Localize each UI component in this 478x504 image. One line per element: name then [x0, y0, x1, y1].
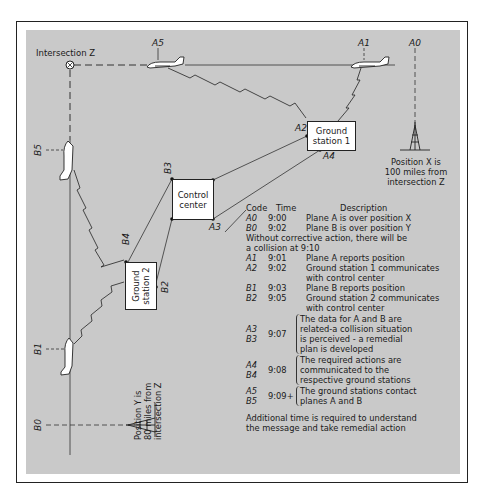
row-code: A0	[246, 213, 268, 223]
marker-b3: B3	[163, 162, 173, 174]
table-row: A1 9:01 Plane A reports position	[246, 253, 458, 263]
ground-station-2-line2: station 2	[141, 267, 151, 304]
row-description-l2: with control center	[306, 273, 384, 283]
radio-link-b5	[74, 170, 124, 267]
group-code: A4	[246, 360, 268, 370]
marker-a2: A2	[295, 123, 307, 133]
plane-b1-icon	[61, 338, 73, 375]
row-time: 9:02	[268, 223, 306, 233]
group-line: is perceived - a remedial	[300, 334, 458, 344]
row-description-l1: Ground station 1 communicates	[306, 263, 439, 273]
table-group: A5B5 9:09+ The ground stations contact p…	[246, 386, 458, 406]
marker-a5: A5	[152, 38, 164, 48]
group-line: The required actions are	[300, 355, 458, 365]
ground-station-1-box: Ground station 1	[307, 121, 356, 151]
intersection-z-label: Intersection Z	[36, 48, 95, 58]
row-code: B0	[246, 223, 268, 233]
radio-tower-x-icon	[400, 122, 430, 150]
position-x-line3: intersection Z	[378, 177, 454, 187]
group-line: respective ground stations	[300, 375, 458, 385]
table-row: A2 9:02 Ground station 1 communicateswit…	[246, 263, 458, 283]
table-group: A3B3 9:07 The data for A and B are relat…	[246, 314, 458, 354]
plane-a5-icon	[147, 57, 184, 68]
group-description: The data for A and B are related-a colli…	[296, 314, 458, 354]
radio-link-a5	[168, 68, 306, 118]
group-time: 9:09+	[268, 391, 290, 401]
group-time: 9:07	[268, 329, 290, 339]
row-code: B2	[246, 293, 268, 313]
position-y-line1: Position Y is	[133, 350, 143, 440]
row-description: Plane B reports position	[306, 283, 458, 293]
header-description: Description	[314, 203, 458, 213]
position-y-line3: intersection Z	[153, 350, 163, 440]
group-code: B5	[246, 396, 268, 406]
table-row: B0 9:02 Plane B is over position Y	[246, 223, 458, 233]
position-y-note: Position Y is 80 miles from intersection…	[133, 350, 163, 440]
table-header: Code Time Description	[246, 203, 458, 213]
row-description: Plane A reports position	[306, 253, 458, 263]
ground-station-2-box: Ground station 2	[125, 262, 157, 310]
table-row: B2 9:05 Ground station 2 communicateswit…	[246, 293, 458, 313]
control-center-line1: Control	[178, 190, 209, 200]
group-description: The ground stations contact planes A and…	[296, 386, 458, 406]
position-y-line2: 80 miles from	[143, 350, 153, 440]
group-line: The data for A and B are	[300, 314, 458, 324]
position-x-line2: 100 miles from	[378, 167, 454, 177]
group-line: planes A and B	[300, 396, 458, 406]
group-line: communicated to the	[300, 365, 458, 375]
row-code: A2	[246, 263, 268, 283]
group-code: A3	[246, 324, 268, 334]
marker-a0: A0	[409, 38, 421, 48]
marker-a3: A3	[209, 222, 221, 232]
radio-link-b1	[74, 282, 124, 344]
row-time: 9:03	[268, 283, 306, 293]
table-row: A0 9:00 Plane A is over position X	[246, 213, 458, 223]
header-code: Code	[246, 203, 268, 213]
table-group: A4B4 9:08 The required actions are commu…	[246, 355, 458, 385]
row-description: Plane B is over position Y	[306, 223, 458, 233]
group-description: The required actions are communicated to…	[296, 355, 458, 385]
group-line: plan is developed	[300, 344, 458, 354]
row-code: A1	[246, 253, 268, 263]
group-line: The ground stations contact	[300, 386, 458, 396]
ground-station-1-line1: Ground	[316, 126, 347, 136]
row-description-l2: with control center	[306, 303, 384, 313]
row-code: B1	[246, 283, 268, 293]
plane-a1-icon	[351, 57, 389, 68]
marker-a1: A1	[358, 38, 370, 48]
group-line: related-a collision situation	[300, 324, 458, 334]
group-code: B4	[246, 370, 268, 380]
timeline-table: Code Time Description A0 9:00 Plane A is…	[246, 203, 458, 433]
row-time: 9:02	[268, 263, 306, 283]
marker-b2: B2	[160, 281, 170, 293]
row-description-l1: Ground station 2 communicates	[306, 293, 439, 303]
group-code: B3	[246, 334, 268, 344]
position-x-line1: Position X is	[378, 157, 454, 167]
intersection-z-icon	[66, 61, 74, 69]
ground-station-2-line1: Ground	[131, 270, 141, 301]
marker-b0: B0	[33, 419, 43, 431]
row-time: 9:00	[268, 213, 306, 223]
collision-note-line2: a collision at 9:10	[246, 243, 458, 253]
header-time: Time	[268, 203, 314, 213]
marker-b1: B1	[33, 343, 43, 355]
footer-note-line1: Additional time is required to understan…	[246, 413, 458, 423]
group-time: 9:08	[268, 365, 290, 375]
marker-b5: B5	[33, 144, 43, 156]
control-center-box: Control center	[172, 179, 214, 220]
footer-note-line2: the message and take remedial action	[246, 423, 458, 433]
row-description: Ground station 2 communicateswith contro…	[306, 293, 458, 313]
marker-b4: B4	[121, 233, 131, 245]
row-time: 9:01	[268, 253, 306, 263]
row-description: Ground station 1 communicateswith contro…	[306, 263, 458, 283]
ground-station-1-line2: station 1	[313, 136, 350, 146]
collision-note-line1: Without corrective action, there will be	[246, 233, 458, 243]
control-center-line2: center	[179, 200, 206, 210]
radio-link-a1	[338, 68, 361, 121]
row-time: 9:05	[268, 293, 306, 313]
row-description: Plane A is over position X	[306, 213, 458, 223]
group-code: A5	[246, 386, 268, 396]
position-x-note: Position X is 100 miles from intersectio…	[378, 157, 454, 187]
marker-a4: A4	[323, 151, 335, 161]
table-row: B1 9:03 Plane B reports position	[246, 283, 458, 293]
